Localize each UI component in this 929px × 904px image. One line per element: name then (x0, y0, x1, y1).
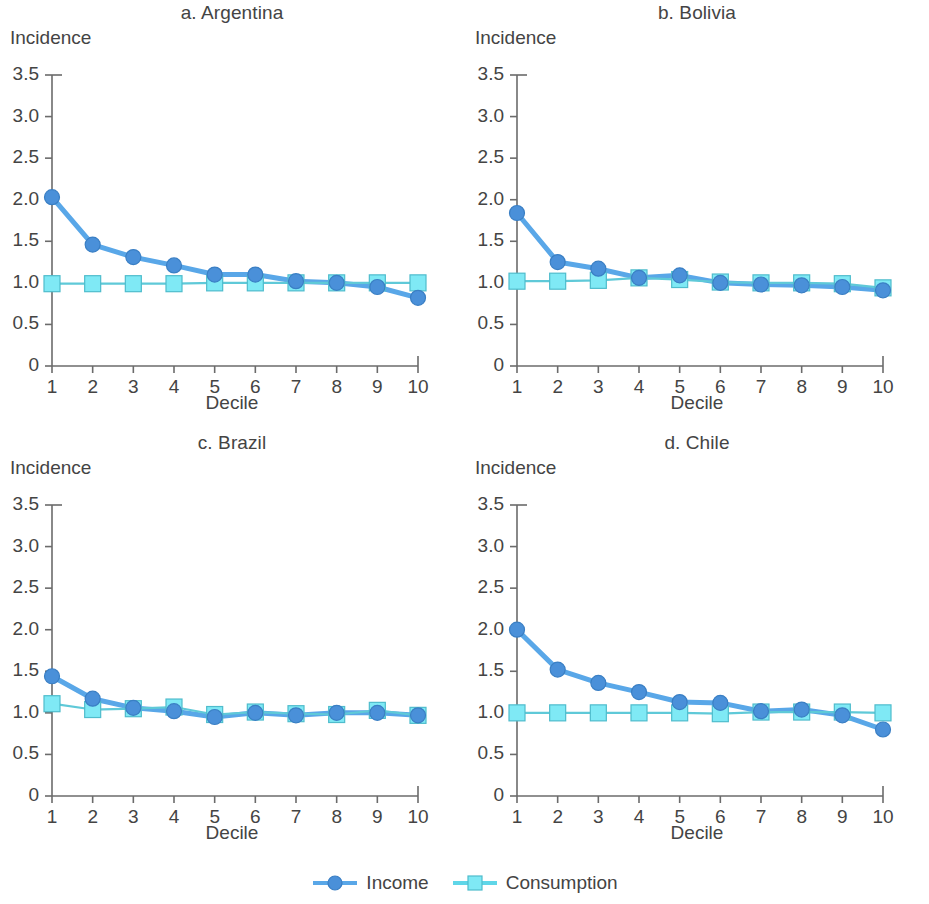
data-point-consumption (509, 705, 525, 721)
data-point-income (754, 704, 769, 719)
y-tick-label: 2.5 (478, 146, 504, 167)
plot-area: 00.51.01.52.02.53.03.512345678910 (465, 0, 929, 430)
y-tick-label: 1.5 (13, 229, 39, 250)
data-point-income (794, 702, 809, 717)
income-marker-icon (311, 873, 359, 893)
panel-brazil: c. Brazil Incidence 00.51.01.52.02.53.03… (0, 430, 464, 860)
data-point-income (45, 190, 60, 205)
y-tick-label: 3.0 (478, 535, 504, 556)
data-point-income (835, 708, 850, 723)
y-tick-label: 1.5 (13, 659, 39, 680)
data-point-income (550, 255, 565, 270)
plot-area: 00.51.01.52.02.53.03.512345678910 (465, 430, 929, 860)
data-point-income (550, 662, 565, 677)
y-tick-label: 0.5 (478, 742, 504, 763)
data-point-income (207, 267, 222, 282)
y-tick-label: 2.5 (13, 146, 39, 167)
data-point-income (289, 708, 304, 723)
data-point-income (248, 267, 263, 282)
data-point-income (45, 669, 60, 684)
data-point-consumption (550, 273, 566, 289)
data-point-income (876, 283, 891, 298)
legend-entry-consumption: Consumption (451, 872, 618, 894)
y-tick-label: 1.0 (13, 701, 39, 722)
legend-entry-income: Income (311, 872, 428, 894)
data-point-income (591, 261, 606, 276)
data-point-consumption (85, 276, 101, 292)
y-tick-label: 1.5 (478, 659, 504, 680)
data-point-consumption (550, 705, 566, 721)
data-point-income (289, 274, 304, 289)
y-tick-label: 3.5 (478, 493, 504, 514)
y-tick-label: 0.5 (478, 312, 504, 333)
x-axis-title: Decile (0, 822, 464, 844)
data-point-income (248, 705, 263, 720)
incidence-by-decile-figure: a. Argentina Incidence 00.51.01.52.02.53… (0, 0, 929, 904)
y-tick-label: 3.5 (13, 493, 39, 514)
data-point-consumption (125, 276, 141, 292)
data-point-income (126, 250, 141, 265)
panel-bolivia: b. Bolivia Incidence 00.51.01.52.02.53.0… (465, 0, 929, 430)
data-point-consumption (44, 696, 60, 712)
chart-legend: Income Consumption (0, 862, 929, 904)
data-point-income (591, 675, 606, 690)
consumption-marker-icon (451, 873, 499, 893)
x-axis-title: Decile (465, 822, 929, 844)
data-point-income (713, 275, 728, 290)
panel-chile: d. Chile Incidence 00.51.01.52.02.53.03.… (465, 430, 929, 860)
y-tick-label: 2.5 (13, 576, 39, 597)
data-point-income (672, 695, 687, 710)
y-tick-label: 3.0 (13, 105, 39, 126)
series-line-income (517, 630, 883, 730)
data-point-income (167, 258, 182, 273)
data-point-income (411, 290, 426, 305)
data-point-income (632, 685, 647, 700)
data-point-income (167, 704, 182, 719)
plot-area: 00.51.01.52.02.53.03.512345678910 (0, 430, 464, 860)
plot-area: 00.51.01.52.02.53.03.512345678910 (0, 0, 464, 430)
legend-label-income: Income (366, 872, 428, 894)
x-axis-title: Decile (465, 392, 929, 414)
data-point-income (672, 268, 687, 283)
data-point-income (411, 708, 426, 723)
y-tick-label: 0 (493, 354, 504, 375)
y-tick-label: 0.5 (13, 312, 39, 333)
y-tick-label: 2.0 (478, 618, 504, 639)
panel-grid: a. Argentina Incidence 00.51.01.52.02.53… (0, 0, 929, 860)
legend-label-consumption: Consumption (506, 872, 618, 894)
data-point-income (85, 691, 100, 706)
data-point-income (754, 277, 769, 292)
data-point-income (835, 280, 850, 295)
data-point-income (510, 206, 525, 221)
y-tick-label: 2.5 (478, 576, 504, 597)
data-point-income (329, 275, 344, 290)
y-tick-label: 3.0 (13, 535, 39, 556)
y-tick-label: 1.0 (478, 701, 504, 722)
data-point-income (207, 710, 222, 725)
data-point-consumption (509, 273, 525, 289)
data-point-consumption (410, 275, 426, 291)
y-tick-label: 2.0 (13, 188, 39, 209)
data-point-consumption (44, 276, 60, 292)
y-tick-label: 3.5 (13, 63, 39, 84)
y-tick-label: 2.0 (478, 188, 504, 209)
data-point-income (85, 237, 100, 252)
y-tick-label: 3.5 (478, 63, 504, 84)
y-tick-label: 2.0 (13, 618, 39, 639)
series-line-consumption (52, 283, 418, 284)
data-point-consumption (166, 276, 182, 292)
data-point-consumption (875, 705, 891, 721)
panel-argentina: a. Argentina Incidence 00.51.01.52.02.53… (0, 0, 464, 430)
data-point-income (510, 622, 525, 637)
y-tick-label: 3.0 (478, 105, 504, 126)
data-point-income (126, 700, 141, 715)
data-point-income (713, 695, 728, 710)
y-tick-label: 0 (28, 354, 39, 375)
data-point-income (370, 280, 385, 295)
series-line-income (517, 213, 883, 290)
y-tick-label: 1.0 (478, 271, 504, 292)
data-point-income (876, 722, 891, 737)
y-tick-label: 0.5 (13, 742, 39, 763)
data-point-consumption (631, 705, 647, 721)
y-tick-label: 1.0 (13, 271, 39, 292)
